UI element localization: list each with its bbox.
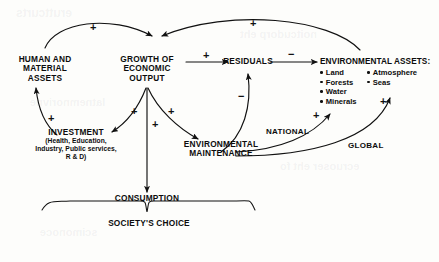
sign-assets-to-growth: + bbox=[250, 18, 256, 29]
sign-residuals-to-assets: − bbox=[288, 49, 294, 60]
bullet-icon bbox=[320, 90, 323, 93]
sign-growth-to-residuals: + bbox=[203, 50, 209, 61]
edge-assets-to-growth bbox=[162, 20, 360, 50]
environmental-assets-title: ENVIRONMENTAL ASSETS: bbox=[320, 57, 438, 66]
sign-maintenance-to-residuals: − bbox=[238, 91, 244, 102]
sign-growth-to-investment: + bbox=[131, 106, 137, 117]
node-consumption: CONSUMPTION bbox=[100, 194, 194, 203]
node-environmental-maintenance: ENVIRONMENTALMAINTENANCE bbox=[160, 140, 282, 159]
bullet-icon bbox=[320, 81, 323, 84]
node-environmental-assets: ENVIRONMENTAL ASSETS: Land Forests Water… bbox=[320, 57, 438, 106]
edge-human-to-growth bbox=[45, 23, 152, 48]
sign-global-to-assets: + bbox=[380, 96, 386, 107]
list-item: Forests bbox=[320, 78, 367, 88]
list-item: Seas bbox=[367, 78, 417, 88]
list-item: Land bbox=[320, 68, 367, 78]
list-item: Atmosphere bbox=[367, 68, 417, 78]
node-growth-economic-output: GROWTH OFECONOMICOUTPUT bbox=[104, 55, 190, 83]
node-residuals: RESIDUALS bbox=[222, 57, 274, 66]
investment-detail-line-2: Industry, Public services, bbox=[6, 145, 146, 153]
bullet-icon bbox=[367, 71, 370, 74]
node-investment: INVESTMENT (Health, Education, Industry,… bbox=[6, 127, 146, 162]
investment-title: INVESTMENT bbox=[6, 127, 146, 137]
environmental-assets-column-right: Atmosphere Seas bbox=[367, 68, 417, 106]
bullet-icon bbox=[320, 100, 323, 103]
edge-label-global: GLOBAL bbox=[348, 142, 384, 150]
sign-investment-to-human: + bbox=[48, 113, 54, 124]
sign-growth-to-consumption: + bbox=[152, 119, 158, 130]
sign-human-to-growth: + bbox=[90, 22, 96, 33]
edge-growth-to-investment bbox=[112, 88, 146, 132]
bullet-icon bbox=[320, 71, 323, 74]
investment-detail-line-3: R & D) bbox=[6, 153, 146, 161]
investment-detail-line-1: (Health, Education, bbox=[6, 137, 146, 145]
list-item: Water bbox=[320, 87, 367, 97]
edge-label-national: NATIONAL bbox=[266, 128, 309, 136]
bullet-icon bbox=[367, 81, 370, 84]
sign-national-to-assets: + bbox=[313, 110, 319, 121]
environmental-assets-column-left: Land Forests Water Minerals bbox=[320, 68, 367, 106]
sign-growth-to-maintenance: + bbox=[168, 106, 174, 117]
list-item: Minerals bbox=[320, 97, 367, 107]
label-societys-choice: SOCIETY'S CHOICE bbox=[98, 219, 200, 228]
node-human-material-assets: HUMAN ANDMATERIALASSETS bbox=[2, 55, 88, 83]
diagram-canvas: eruttcurts noitcudorp eht latnemnorivne … bbox=[0, 0, 439, 262]
